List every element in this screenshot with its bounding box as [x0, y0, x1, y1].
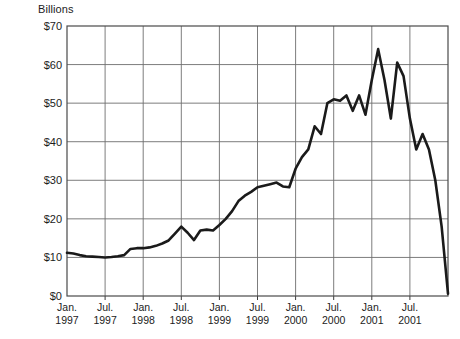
x-tick-month: Jul. [246, 301, 269, 314]
x-axis-tick-labels: Jan.1997Jul.1997Jan.1998Jul.1998Jan.1999… [0, 0, 460, 339]
x-tick-year: 1997 [93, 314, 116, 327]
x-tick-month: Jan. [208, 301, 231, 314]
x-tick-year: 1998 [132, 314, 155, 327]
x-tick-month: Jul. [398, 301, 421, 314]
x-tick-label: Jan.2001 [360, 301, 383, 326]
x-tick-label: Jan.1998 [132, 301, 155, 326]
x-tick-month: Jan. [284, 301, 307, 314]
x-tick-label: Jan.1997 [55, 301, 78, 326]
x-tick-month: Jul. [322, 301, 345, 314]
x-tick-year: 1997 [55, 314, 78, 327]
x-tick-year: 2000 [284, 314, 307, 327]
x-tick-year: 1998 [170, 314, 193, 327]
x-tick-month: Jan. [132, 301, 155, 314]
x-tick-year: 2001 [360, 314, 383, 327]
x-tick-year: 2001 [398, 314, 421, 327]
x-tick-label: Jan.2000 [284, 301, 307, 326]
x-tick-month: Jul. [93, 301, 116, 314]
x-tick-year: 1999 [208, 314, 231, 327]
x-tick-label: Jul.2000 [322, 301, 345, 326]
x-tick-label: Jul.1999 [246, 301, 269, 326]
x-tick-label: Jan.1999 [208, 301, 231, 326]
x-tick-year: 1999 [246, 314, 269, 327]
x-tick-label: Jul.2001 [398, 301, 421, 326]
line-chart-figure: Billions $0$10$20$30$40$50$60$70 Jan.199… [0, 0, 460, 339]
x-tick-year: 2000 [322, 314, 345, 327]
x-tick-label: Jul.1998 [170, 301, 193, 326]
x-tick-month: Jul. [170, 301, 193, 314]
x-tick-month: Jan. [55, 301, 78, 314]
x-tick-label: Jul.1997 [93, 301, 116, 326]
x-tick-month: Jan. [360, 301, 383, 314]
